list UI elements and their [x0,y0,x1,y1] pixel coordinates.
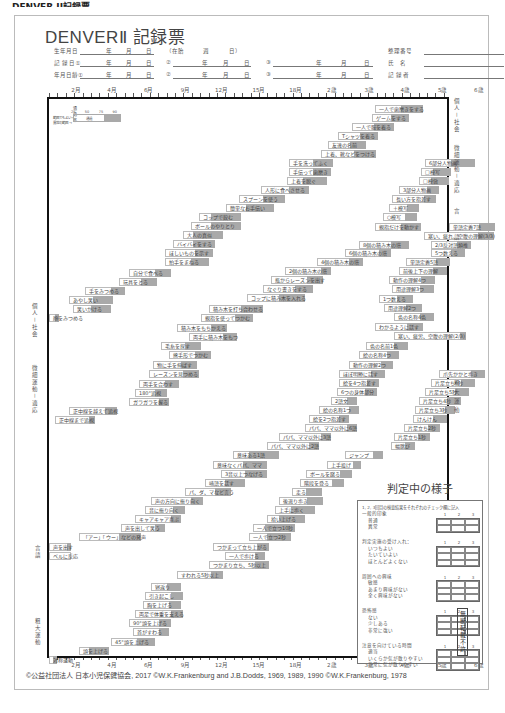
milestone-shade [407,204,419,212]
milestone-label: 胸を上げる [147,601,172,609]
milestone-label: 片足立ち3秒 [419,406,447,414]
milestone-label: 拍手をまねる [169,258,199,266]
left-category-personal-social: 個人－社会 [31,303,39,338]
milestone-label: 4個の積み木の塔 [321,258,359,266]
milestone-label: Tシャツを着る [342,132,375,140]
top-caption: DENVER II記録票 [12,0,90,7]
milestone-label: 用途理解3つ [396,285,424,293]
id-number-label: 整理番号 [388,47,412,55]
milestone-label: □模倣 [423,177,438,185]
check-cell[interactable] [465,525,479,532]
check-cell[interactable] [437,525,451,532]
milestone-label: 手をみつめる [89,287,119,295]
record-date-1-field[interactable] [80,59,154,67]
age-3-field[interactable] [273,71,373,79]
milestone-label: あやし笑い [73,296,98,304]
milestone-label: 上着、靴などをつける [325,150,375,158]
milestone-label: 笑いかける [77,305,102,313]
milestone-label: 片足立ち5秒 [429,388,457,396]
year-unit: 年 [316,59,322,67]
day-unit: 日 [244,71,250,79]
milestone-label: 簡単なお手伝い [230,204,265,212]
record-date-3-field[interactable] [273,59,373,67]
day-unit: 日 [364,71,370,79]
milestone-label: 90°頭を上げる [133,619,167,627]
milestone-label: 絵を2つ指差す [313,415,346,423]
age-1-field[interactable] [80,71,154,79]
record-date-label: 記 録 日① [54,59,80,67]
milestone-label: すわれる5秒以上 [181,571,219,579]
milestone-label: 積み木を打ち合わせる [213,305,263,313]
year-unit: 年 [202,59,208,67]
check-cell[interactable] [465,594,479,601]
name-label: 氏 名 [388,59,406,67]
judgment-section: 周囲への興味123敏感あまり興味がない全く興味がない [362,574,480,600]
milestone-label: ベルに反応 [53,552,78,560]
milestone-label: 片足立ち1秒 [398,433,426,441]
milestone-label: 自分で食べる [133,269,163,277]
milestone-shade [306,488,322,496]
milestone-label: 3音以上つなげる [225,470,263,478]
age-label: 年月日齢① [54,71,83,79]
milestone-label: 絵の名称1つ [323,406,351,414]
check-grid[interactable] [436,546,480,568]
check-column-numbers: 123 [438,512,480,517]
age-2-field[interactable] [173,71,251,79]
milestone-label: 声を出して笑う [125,524,160,532]
check-cell[interactable] [451,663,465,670]
milestone-label: 単語定義5語 [410,258,438,266]
milestone-label: 上手に歩く [279,506,304,514]
milestone-label: 頭を上げる [83,647,108,655]
milestone-shade [353,461,361,469]
milestone-label: ○模写 [387,213,401,221]
milestone-label: 「アー」「ウー」などの発声 [83,533,146,541]
milestone-label: 5つ数える [435,249,458,257]
check-cell[interactable] [451,560,465,567]
milestone-label: ＋模写 [393,204,408,212]
milestone-label: 一人で歩ける [229,552,259,560]
year-unit: 年 [316,71,322,79]
milestone-shade [405,213,417,221]
milestone-label: 6つの身体部分 [341,388,374,396]
judgment-instruction: 1, 2, 3回目の検査結果をそれぞれのチェック欄に記入 [362,504,478,510]
check-cell[interactable] [465,560,479,567]
gestation-label: （在胎 [166,47,184,55]
left-category-language: 言語 [34,545,42,559]
month-unit: 月 [126,59,132,67]
day-unit: 日 [244,59,250,67]
id-number-field[interactable] [424,47,504,55]
birthdate-label: 生年月日 [54,47,78,55]
record-date-2-field[interactable] [173,59,251,67]
day-unit: 日 [364,59,370,67]
check-cell[interactable] [437,594,451,601]
milestone-shade [340,470,352,478]
name-field[interactable] [424,59,504,67]
check-grid[interactable] [436,580,480,602]
milestone-label: 引き起こし [149,592,174,600]
milestone-label: 大人の真似 [187,231,212,239]
legend-bar: 通過 [73,114,121,122]
milestone-label: 人形に食べさせる [265,186,305,194]
birthdate-field[interactable] [80,47,154,55]
check-cell[interactable] [437,629,451,636]
age-tick-label: 18月 [289,661,302,669]
age-tick-label: 6歳 [474,86,484,94]
check-cell[interactable] [451,594,465,601]
recorder-field[interactable] [424,71,504,79]
milestone-label: ほぼ明瞭に話す [343,370,378,378]
milestone-label: 瓶からレーズンを出す [275,276,325,284]
check-cell[interactable] [437,560,451,567]
check-grid[interactable] [436,518,480,533]
milestone-label: 絵を4つ指差す [343,379,376,387]
milestone-label: 手を洗ってふく [293,159,328,167]
milestone-label: 毛糸を探す [165,342,190,350]
week-unit: 週 [203,47,209,55]
check-cell[interactable] [465,663,479,670]
milestone-label: 音に振り向く [149,506,179,514]
right-category-personal-social: 個人－社会 [453,98,461,133]
milestone-label: 上着を脱ぐ [291,177,316,185]
check-cell[interactable] [437,663,451,670]
form-title: DENVERⅡ 記録票 [45,23,185,48]
milestone-label: つかまって立ち上がる [217,543,267,551]
check-cell[interactable] [451,525,465,532]
